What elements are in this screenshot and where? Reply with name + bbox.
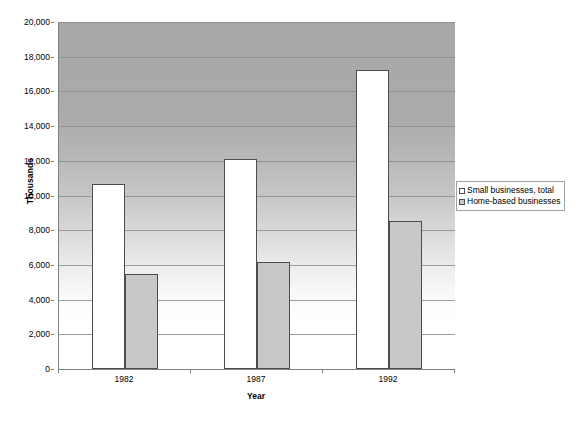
y-axis-tick-mark: [51, 161, 54, 162]
y-axis-tick-label: 10,000: [24, 191, 50, 200]
y-axis-tick-mark: [51, 196, 54, 197]
y-axis-tick-mark: [51, 230, 54, 231]
bar-1982-series-0: [92, 184, 125, 369]
x-axis-tick-label: 1982: [115, 374, 134, 384]
x-axis-tick-mark: [190, 369, 191, 373]
y-axis-tick-label: 18,000: [24, 52, 50, 61]
gridline: [59, 22, 455, 23]
legend-item-1[interactable]: Home-based businesses: [459, 196, 561, 207]
y-axis-tick-mark: [51, 91, 54, 92]
plot-area: [58, 22, 455, 370]
y-axis-tick-labels: 02,0004,0006,0008,00010,00012,00014,0001…: [6, 22, 54, 369]
y-axis-tick-label: 16,000: [24, 87, 50, 96]
y-axis-tick-label: 4,000: [29, 295, 50, 304]
y-axis-tick-mark: [51, 334, 54, 335]
gridline: [59, 126, 455, 127]
legend-item-0[interactable]: Small businesses, total: [459, 185, 561, 196]
bar-1982-series-1: [125, 274, 158, 369]
bar-chart: Thousands 02,0004,0006,0008,00010,00012,…: [0, 0, 581, 425]
y-axis-tick-label: 2,000: [29, 330, 50, 339]
y-axis-tick-mark: [51, 369, 54, 370]
x-axis-tick-labels: 198219871992: [58, 374, 454, 388]
bar-1992-series-1: [389, 221, 422, 369]
y-axis-tick-label: 0: [45, 365, 50, 374]
y-axis-tick-mark: [51, 265, 54, 266]
legend-item-label: Home-based businesses: [467, 196, 561, 207]
x-axis-title: Year: [58, 391, 454, 401]
chart-legend: Small businesses, totalHome-based busine…: [456, 181, 565, 211]
bar-1992-series-0: [356, 70, 389, 369]
y-axis-tick-label: 20,000: [24, 18, 50, 27]
x-axis-tick-mark: [322, 369, 323, 373]
legend-item-label: Small businesses, total: [467, 185, 554, 196]
gridline: [59, 161, 455, 162]
y-axis-tick-mark: [51, 126, 54, 127]
bar-1987-series-1: [257, 262, 290, 369]
y-axis-tick-mark: [51, 300, 54, 301]
bar-1987-series-0: [224, 159, 257, 369]
gridline: [59, 57, 455, 58]
x-axis-tick-label: 1992: [379, 374, 398, 384]
y-axis-tick-label: 8,000: [29, 226, 50, 235]
x-axis-tick-label: 1987: [247, 374, 266, 384]
gridline: [59, 91, 455, 92]
y-axis-tick-label: 12,000: [24, 157, 50, 166]
legend-swatch-icon: [459, 199, 465, 205]
y-axis-tick-mark: [51, 57, 54, 58]
x-axis-tick-mark: [58, 369, 59, 373]
legend-swatch-icon: [459, 188, 465, 194]
y-axis-tick-label: 6,000: [29, 261, 50, 270]
y-axis-tick-mark: [51, 22, 54, 23]
y-axis-tick-label: 14,000: [24, 122, 50, 131]
x-axis-tick-mark: [454, 369, 455, 373]
